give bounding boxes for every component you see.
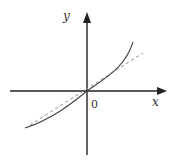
x-axis-arrow-icon bbox=[157, 87, 167, 95]
x-axis bbox=[10, 87, 167, 95]
y-axis bbox=[83, 12, 91, 155]
y-axis-label: y bbox=[62, 9, 70, 23]
function-graph: y x 0 bbox=[0, 0, 177, 164]
origin-label: 0 bbox=[91, 98, 98, 111]
solid-curve bbox=[25, 42, 133, 128]
y-axis-arrow-icon bbox=[83, 12, 91, 23]
x-axis-label: x bbox=[152, 95, 159, 109]
